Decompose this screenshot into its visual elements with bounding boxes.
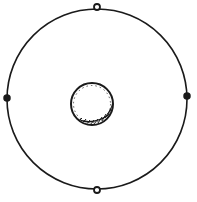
diagram-svg (0, 0, 197, 202)
diagram-canvas (0, 0, 197, 202)
bead-left (4, 95, 10, 101)
bead-right (184, 93, 190, 99)
inner-sphere (71, 83, 113, 125)
outer-ring (7, 9, 187, 189)
bead-top (94, 4, 100, 10)
bead-bottom (94, 187, 100, 193)
